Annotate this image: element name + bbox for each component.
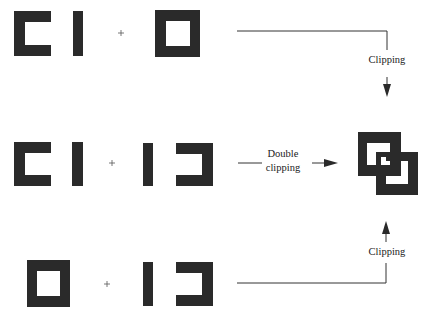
plus-operator: [109, 160, 115, 166]
clipping-label-bottom: Clipping: [369, 246, 407, 257]
left-bracket-shape: [14, 142, 51, 186]
right-bracket-shape: [176, 262, 213, 306]
vertical-bar-shape: [72, 142, 83, 186]
clipping-diagram: Clipping Double clipping: [0, 0, 429, 320]
row-3: Clipping: [27, 221, 406, 307]
right-bracket-shape: [176, 143, 213, 186]
hollow-square-shape: [155, 10, 200, 57]
arrow-up-icon: [382, 221, 390, 242]
arrow-right-icon: [312, 159, 338, 167]
vertical-bar-shape: [143, 262, 153, 306]
row-2: Double clipping: [14, 132, 418, 195]
result-interlocked-squares: [358, 132, 418, 195]
connector-line-top: [237, 31, 387, 50]
left-bracket-shape: [14, 11, 51, 56]
row-1: Clipping: [14, 10, 406, 97]
vertical-bar-shape: [73, 11, 83, 56]
arrow-down-icon: [383, 77, 391, 97]
overlap-window: [381, 157, 386, 165]
connector-line-bottom: [237, 263, 386, 283]
clipping-label-top: Clipping: [369, 54, 407, 65]
double-clipping-label-line1: Double: [268, 148, 299, 159]
plus-operator: [104, 281, 110, 287]
overlap-window: [386, 161, 390, 165]
double-clipping-label-line2: clipping: [266, 162, 301, 173]
plus-operator: [118, 30, 124, 36]
vertical-bar-shape: [143, 143, 153, 186]
hollow-square-shape: [27, 260, 70, 307]
